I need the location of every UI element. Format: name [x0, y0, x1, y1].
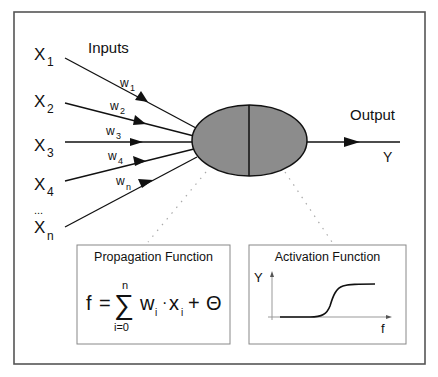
svg-text:4: 4	[47, 185, 54, 199]
term-dot: ·	[162, 294, 167, 311]
weight-wn: w n	[115, 174, 131, 192]
svg-text:w: w	[105, 124, 115, 138]
propagation-title: Propagation Function	[94, 250, 213, 264]
output-symbol: Y	[383, 149, 393, 165]
term-w-sub: i	[155, 307, 157, 318]
weight-w4: w 4	[107, 149, 123, 166]
svg-text:w: w	[119, 76, 129, 90]
arrow-icon-2	[133, 115, 146, 125]
formula-lhs: f	[86, 292, 92, 314]
connection-1	[65, 58, 196, 128]
svg-text:X: X	[34, 45, 45, 64]
arrow-icon-3	[130, 138, 143, 146]
output-arrow-icon	[344, 137, 360, 147]
input-ellipsis: ...	[34, 204, 43, 216]
sum-symbol: ∑	[114, 289, 134, 320]
svg-text:4: 4	[118, 156, 123, 166]
formula-equals: =	[99, 292, 111, 314]
svg-text:3: 3	[47, 146, 54, 160]
svg-text:2: 2	[47, 102, 54, 116]
output-title: Output	[350, 106, 396, 123]
propagation-function-panel: Propagation Function f = ∑ n i=0 w i · x…	[77, 245, 230, 344]
sum-lower: i=0	[114, 321, 129, 333]
sum-upper: n	[122, 279, 128, 291]
svg-text:2: 2	[120, 106, 125, 116]
activation-y-label: Y	[254, 270, 263, 285]
svg-text:X: X	[34, 218, 45, 237]
callout-dots	[148, 172, 332, 242]
input-xn: X n	[34, 218, 54, 243]
svg-text:w: w	[109, 99, 119, 113]
input-x3: X 3	[34, 136, 54, 160]
term-x-sub: i	[181, 307, 183, 318]
svg-text:1: 1	[130, 83, 135, 93]
activation-function-panel: Activation Function Y f	[249, 245, 406, 344]
term-plus: +	[188, 292, 200, 314]
svg-text:X: X	[34, 92, 45, 111]
weight-w3: w 3	[105, 124, 121, 141]
inputs-title: Inputs	[88, 39, 129, 56]
input-x2: X 2	[34, 92, 54, 116]
connection-4	[65, 149, 194, 181]
svg-text:w: w	[115, 174, 125, 188]
input-x4: X 4	[34, 175, 54, 199]
weight-arrow-icons	[130, 91, 153, 188]
svg-text:n: n	[126, 182, 131, 192]
term-w: w	[139, 292, 155, 314]
term-x: x	[169, 292, 179, 314]
svg-text:X: X	[34, 136, 45, 155]
neuron-diagram: Inputs X 1 X 2 X 3 X 4 ... X n w 1	[0, 0, 438, 377]
activation-x-label: f	[381, 321, 385, 336]
svg-text:n: n	[47, 229, 54, 243]
weight-w2: w 2	[109, 99, 125, 116]
svg-text:3: 3	[116, 131, 121, 141]
svg-text:w: w	[107, 149, 117, 163]
input-x1: X 1	[34, 45, 54, 69]
svg-text:1: 1	[47, 55, 54, 69]
connection-n	[65, 157, 197, 227]
connection-2	[65, 103, 194, 136]
svg-text:X: X	[34, 175, 45, 194]
bias-theta: Θ	[206, 292, 222, 314]
arrow-icon-4	[133, 156, 146, 166]
activation-title: Activation Function	[275, 250, 381, 264]
